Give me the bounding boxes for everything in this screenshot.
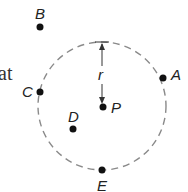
label-p: P <box>111 99 121 116</box>
circle-diagram: at r B C A P D E <box>0 0 188 192</box>
point-b <box>37 24 44 31</box>
point-d <box>70 126 77 133</box>
point-p <box>100 104 107 111</box>
text-fragment: at <box>0 62 13 84</box>
label-e: E <box>97 177 108 192</box>
point-e <box>99 167 106 174</box>
radius-arrowhead-up-icon <box>99 43 105 50</box>
label-b: B <box>35 5 45 22</box>
label-a: A <box>170 66 181 83</box>
radius-label: r <box>98 66 104 83</box>
point-c <box>37 89 44 96</box>
point-a <box>160 75 167 82</box>
label-d: D <box>68 108 79 125</box>
label-c: C <box>22 83 33 100</box>
radius-arrowhead-down-icon <box>99 97 105 104</box>
